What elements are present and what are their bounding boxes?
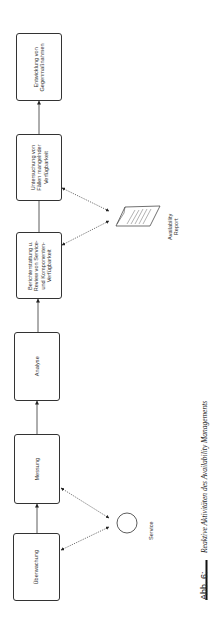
box-label: Überwachung [33,550,39,585]
box-berichterstattung: Berichterstattung u. Review von Service-… [16,232,62,299]
dotted-messung-service [61,488,109,518]
dotted-berichterstattung-report [62,221,109,245]
box-label: Gegenmaßnahmen [39,43,45,91]
box-messung: Messung [14,434,60,504]
box-untersuchung: Untersuchung von Fällen mangelnder Verfü… [16,134,62,201]
dotted-untersuchung-report [62,188,109,211]
box-ueberwachung: Überwachung [13,533,60,601]
dotted-ueberwachung-service [61,527,109,550]
report-document-icon [116,206,160,226]
figure-caption: Abb. 6: Reaktive Aktivitäten des Availab… [193,401,211,600]
box-entwicklung: Entwicklung von Gegenmaßnahmen [16,33,62,101]
box-label: Verfügbarkeit [45,240,51,291]
box-label: und Komponenten- [39,240,45,291]
service-circle-icon [117,513,137,533]
box-label: Berichterstattung u. [26,240,32,291]
caption-text: Reaktive Aktivitäten des Availability Ma… [200,401,209,553]
box-analyse: Analyse [14,332,60,401]
caption-number: Abb. 6: [199,571,209,600]
service-label: Service [148,521,154,540]
box-label: Fällen mangelnder [36,144,42,190]
box-label: Entwicklung von [33,43,39,91]
box-label: Messung [34,458,40,481]
box-label: Analyse [34,357,40,377]
box-label: Review von Service- [33,240,39,291]
box-label: Untersuchung von [29,144,35,190]
report-label: Availability Report [167,214,180,240]
box-label: Verfügbarkeit [42,144,48,190]
